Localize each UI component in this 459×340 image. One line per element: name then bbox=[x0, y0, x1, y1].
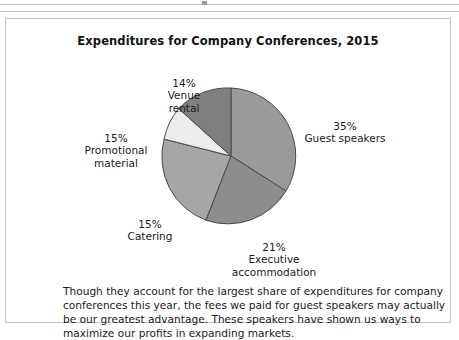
pie-label-executive-accommodation-line2: accommodation bbox=[206, 266, 342, 278]
figure-container: Expenditures for Company Conferences, 20… bbox=[5, 18, 451, 323]
pie-label-guest-speakers-line1: Guest speakers bbox=[292, 132, 398, 144]
pie-label-catering-line1: Catering bbox=[110, 230, 190, 242]
pie-label-promotional-material-line2: material bbox=[68, 157, 164, 169]
pie-label-guest-speakers-percent: 35% bbox=[292, 120, 398, 132]
pie-label-venue-rental-percent: 14% bbox=[146, 77, 222, 89]
pie-label-catering-percent: 15% bbox=[110, 218, 190, 230]
pie-label-venue-rental: 14% Venue rental bbox=[146, 77, 222, 114]
pie-label-promotional-material-percent: 15% bbox=[68, 132, 164, 144]
pie-label-venue-rental-line1: Venue bbox=[146, 89, 222, 101]
top-rule-upper bbox=[0, 4, 459, 5]
pie-label-promotional-material: 15% Promotional material bbox=[68, 132, 164, 169]
pie-label-executive-accommodation-line1: Executive bbox=[206, 253, 342, 265]
top-rule-lower bbox=[0, 11, 459, 12]
pie-label-venue-rental-line2: rental bbox=[146, 102, 222, 114]
page-artifact-mark bbox=[202, 1, 207, 5]
chart-title: Expenditures for Company Conferences, 20… bbox=[6, 34, 450, 48]
pie-label-executive-accommodation-percent: 21% bbox=[206, 241, 342, 253]
figure-caption: Though they account for the largest shar… bbox=[63, 284, 453, 340]
pie-label-guest-speakers: 35% Guest speakers bbox=[292, 120, 398, 145]
pie-label-catering: 15% Catering bbox=[110, 218, 190, 243]
pie-label-executive-accommodation: 21% Executive accommodation bbox=[206, 241, 342, 278]
pie-label-promotional-material-line1: Promotional bbox=[68, 144, 164, 156]
